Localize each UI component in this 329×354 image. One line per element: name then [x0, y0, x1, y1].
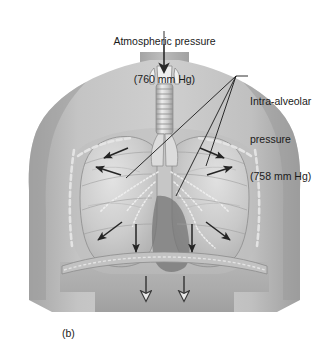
intra-alveolar-pressure-label: Intra-alveolar pressure (758 mm Hg): [250, 70, 311, 195]
intra-alveolar-line1: Intra-alveolar: [250, 95, 311, 108]
intra-alveolar-line2: pressure: [250, 133, 311, 146]
panel-label: (b): [62, 327, 75, 340]
atmospheric-pressure-line1: Atmospheric pressure: [0, 35, 329, 48]
intra-alveolar-line3: (758 mm Hg): [250, 170, 311, 183]
